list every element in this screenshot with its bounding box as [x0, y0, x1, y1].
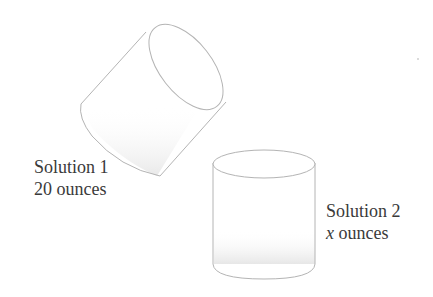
upright-cylinder-shading: [214, 230, 315, 264]
solution-2-name: Solution 2: [326, 200, 401, 222]
cylinders-figure: [0, 0, 433, 297]
speck-mark: [417, 58, 419, 60]
solution-1-amount-value: 20: [34, 179, 52, 199]
upright-cylinder-bottom-rim: [213, 264, 315, 279]
solution-1-amount-unit: ounces: [57, 179, 107, 199]
solution-2-amount-unit: ounces: [339, 223, 389, 243]
solution-1-label: Solution 1 20 ounces: [34, 156, 109, 200]
mixture-diagram: Solution 1 20 ounces Solution 2 x ounces: [0, 0, 433, 297]
solution-2-amount: x ounces: [326, 222, 401, 244]
solution-1-name: Solution 1: [34, 156, 109, 178]
solution-1-amount: 20 ounces: [34, 178, 109, 200]
tilted-cylinder-top-opening: [135, 12, 238, 123]
upright-cylinder-top-opening: [213, 150, 315, 178]
solution-2-label: Solution 2 x ounces: [326, 200, 401, 244]
tilted-cylinder: [80, 12, 237, 176]
solution-2-amount-value: x: [326, 223, 334, 243]
upright-cylinder: [213, 150, 315, 279]
tilted-cylinder-upper-side: [81, 32, 146, 104]
